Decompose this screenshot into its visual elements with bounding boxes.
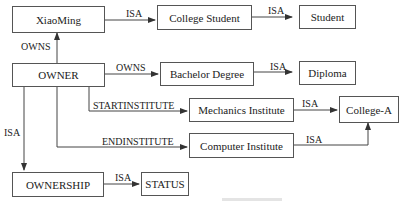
node-status: STATUS [141,172,189,196]
edge-label-computer-isa: ISA [306,135,322,145]
node-mechanics-institute: Mechanics Institute [189,98,294,122]
edge-label-owner-isa: ISA [4,128,20,138]
edge-label-owner-owns-degree: OWNS [116,63,145,73]
edge-label-startinstitute: STARTINSTITUTE [93,101,174,111]
node-college-a: College-A [339,96,399,123]
node-computer-institute: Computer Institute [189,133,294,158]
edge-label-degree-isa: ISA [270,62,286,72]
node-diploma: Diploma [299,61,356,85]
node-college-student: College Student [157,5,252,30]
edge-label-owner-owns-xiaoming: OWNS [21,42,50,52]
edge-label-endinstitute: ENDINSTITUTE [102,137,174,147]
edge-label-college-student-isa: ISA [268,6,284,16]
node-owner: OWNER [12,63,105,87]
faded-caption [222,198,282,201]
edge-label-xiaoming-isa: ISA [126,9,142,19]
node-student: Student [299,5,356,29]
node-ownership: OWNERSHIP [12,172,104,197]
edge-label-ownership-isa: ISA [115,173,131,183]
node-bachelor-degree: Bachelor Degree [160,62,254,86]
node-xiaoming: XiaoMing [12,6,105,33]
edge-label-mechanics-isa: ISA [302,99,318,109]
